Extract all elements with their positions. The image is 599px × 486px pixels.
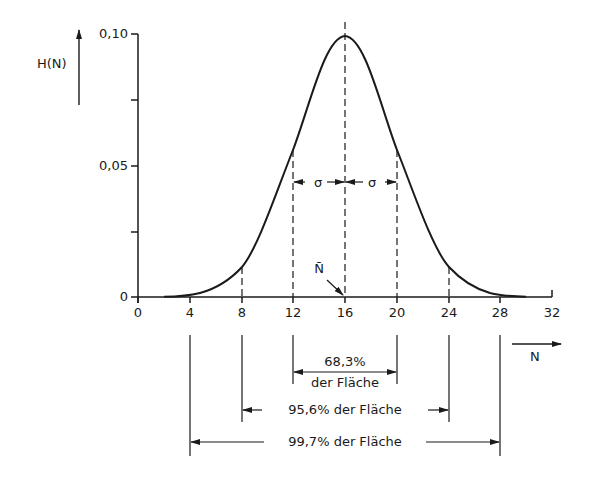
x-tick-label: 12 — [285, 306, 302, 320]
x-tick-label: 20 — [389, 306, 406, 320]
x-tick-label: 28 — [492, 306, 509, 320]
y-tick-label: 0 — [120, 290, 128, 304]
x-tick-label: 16 — [337, 306, 354, 320]
x-tick-label: 32 — [544, 306, 561, 320]
x-tick-label: 8 — [238, 306, 246, 320]
sigma-right-label: σ — [368, 176, 376, 190]
x-axis-label: N — [530, 350, 540, 364]
sigma-left-label: σ — [314, 176, 322, 190]
y-axis — [131, 34, 138, 303]
range-68-percent: 68,3% — [324, 355, 365, 369]
y-axis-label: H(N) — [37, 57, 67, 71]
x-tick-label: 0 — [134, 306, 142, 320]
y-tick-label: 0,10 — [99, 27, 128, 41]
range-95-label: 95,6% der Fläche — [288, 403, 402, 417]
mean-pointer-arrow-icon — [327, 280, 343, 295]
mean-label: N̄ — [314, 262, 324, 276]
x-tick-label: 4 — [186, 306, 194, 320]
range-68-text: der Fläche — [311, 376, 379, 390]
sigma-guides — [242, 22, 449, 297]
range-99-label: 99,7% der Fläche — [288, 435, 402, 449]
x-tick-label: 24 — [441, 306, 458, 320]
y-tick-label: 0,05 — [99, 159, 128, 173]
